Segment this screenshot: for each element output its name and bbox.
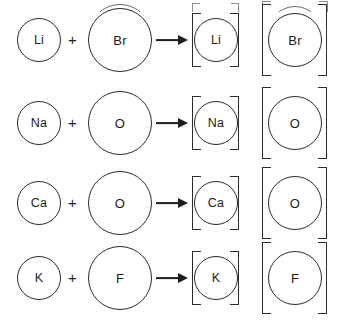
reactant-metal-atom: Li: [17, 18, 61, 62]
product-metal-ion: Ca: [194, 181, 238, 225]
product-metal-bracket: K: [192, 251, 239, 305]
reaction-arrow-icon: [156, 268, 188, 288]
reaction-arrow-icon: [156, 30, 188, 50]
product-metal-bracket: Na: [192, 96, 239, 150]
diagram-canvas: Li + Br Li Br Na +: [0, 0, 337, 322]
ion-label: F: [291, 272, 299, 285]
product-nonmetal-ion: O: [268, 176, 322, 230]
product-nonmetal-ion: F: [268, 251, 322, 305]
plus-glyph: +: [68, 31, 77, 48]
ion-label: K: [212, 272, 221, 285]
reactant-metal-atom: Na: [17, 101, 61, 145]
atom-label: O: [115, 197, 125, 210]
reaction-row-na-o: Na + O Na O: [0, 83, 337, 165]
product-nonmetal-ion: O: [268, 96, 322, 150]
plus-sign: +: [68, 195, 77, 210]
atom-label: F: [116, 272, 124, 285]
plus-sign: +: [68, 115, 77, 130]
plus-glyph: +: [68, 269, 77, 286]
product-nonmetal-bracket: O: [262, 167, 327, 239]
product-metal-ion: K: [194, 256, 238, 300]
reaction-row-ca-o: Ca + O Ca O: [0, 163, 337, 245]
ion-label: Br: [288, 34, 301, 47]
ion-label: Ca: [208, 197, 224, 210]
reactant-metal-atom: K: [17, 256, 61, 300]
reactant-metal-atom: Ca: [17, 181, 61, 225]
product-nonmetal-bracket: O: [262, 87, 327, 159]
reaction-arrow-icon: [156, 193, 188, 213]
reactant-nonmetal-atom: F: [88, 246, 152, 310]
product-nonmetal-bracket: Br: [262, 4, 327, 76]
reactant-nonmetal-atom: O: [88, 91, 152, 155]
product-metal-ion: Li: [194, 18, 238, 62]
reaction-row-li-br: Li + Br Li Br: [0, 0, 337, 82]
ion-label: Na: [208, 117, 224, 130]
plus-sign: +: [68, 32, 77, 47]
reactant-nonmetal-atom: Br: [88, 8, 152, 72]
plus-glyph: +: [68, 114, 77, 131]
product-metal-bracket: Li: [192, 13, 239, 67]
atom-label: Na: [31, 117, 47, 130]
atom-label: O: [115, 117, 125, 130]
product-metal-ion: Na: [194, 101, 238, 145]
reaction-row-k-f: K + F K F: [0, 240, 337, 322]
ion-label: O: [290, 197, 300, 210]
product-metal-bracket: Ca: [192, 176, 239, 230]
atom-label: Li: [34, 34, 44, 47]
reaction-arrow-icon: [156, 113, 188, 133]
product-nonmetal-ion: Br: [268, 13, 322, 67]
plus-glyph: +: [68, 194, 77, 211]
reactant-nonmetal-atom: O: [88, 171, 152, 235]
atom-label: Ca: [31, 197, 47, 210]
atom-label: Br: [113, 34, 126, 47]
atom-label: K: [35, 272, 44, 285]
ion-label: Li: [211, 34, 221, 47]
plus-sign: +: [68, 270, 77, 285]
ion-label: O: [290, 117, 300, 130]
product-nonmetal-bracket: F: [262, 242, 327, 314]
